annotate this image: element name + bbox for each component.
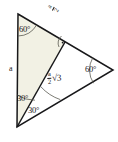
- label-angle-right: 60°: [85, 65, 96, 74]
- right-angle-dot: [62, 42, 64, 44]
- radical-root-three: √3: [51, 73, 61, 82]
- label-angle-bottom-lower: 30°: [28, 106, 39, 115]
- angle-arc-bottom-lower: [41, 87, 60, 100]
- label-angle-bottom-upper: 30°: [17, 94, 28, 103]
- label-cevian: a 2 √3: [47, 69, 62, 86]
- label-angle-top-left: 60°: [19, 25, 30, 34]
- geometry-diagram: a 2 a a 2 √3 60° 60° 30° 30°: [0, 0, 118, 142]
- label-left-side: a: [9, 65, 13, 73]
